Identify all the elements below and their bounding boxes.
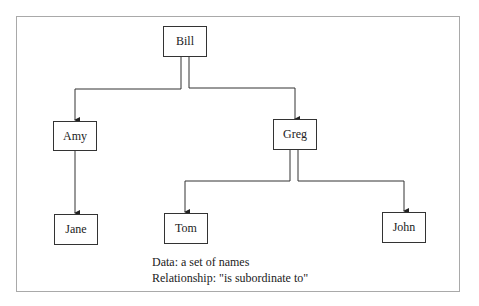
node-label: Tom xyxy=(175,221,197,236)
node-label: Jane xyxy=(65,222,86,237)
edge-greg-tom xyxy=(185,150,290,212)
node-amy: Amy xyxy=(53,121,97,151)
node-jane: Jane xyxy=(54,214,98,245)
caption-relationship: Relationship: "is subordinate to" xyxy=(152,270,308,286)
edge-bill-amy xyxy=(75,57,181,120)
edge-bill-greg xyxy=(189,57,295,119)
node-john: John xyxy=(382,212,426,243)
node-greg: Greg xyxy=(273,119,317,150)
caption-data: Data: a set of names xyxy=(152,254,308,270)
node-label: Amy xyxy=(63,129,87,144)
edge-greg-john xyxy=(298,150,404,211)
node-label: Bill xyxy=(176,34,194,49)
node-tom: Tom xyxy=(164,213,208,244)
caption: Data: a set of names Relationship: "is s… xyxy=(152,254,308,286)
node-bill: Bill xyxy=(163,26,207,57)
node-label: John xyxy=(393,220,416,235)
node-label: Greg xyxy=(283,127,307,142)
